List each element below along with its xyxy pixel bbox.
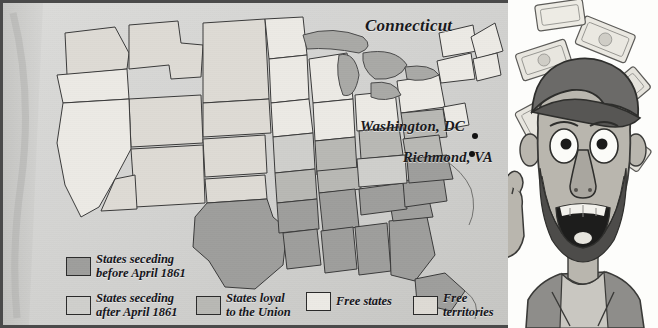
legend-item-loyal-union: States loyal to the Union	[196, 292, 291, 319]
legend-swatch-free-states	[306, 292, 331, 311]
map-label-connecticut: Connecticut	[365, 16, 452, 36]
legend-item-free-territories: Free territories	[413, 292, 494, 319]
legend-item-seceding-after: States seceding after April 1861	[66, 292, 177, 319]
legend-label-loyal-union: States loyal to the Union	[226, 292, 291, 319]
legend-swatch-seceding-after	[66, 296, 91, 315]
map-canvas: Connecticut Washington, DC Richmond, VA …	[3, 3, 513, 325]
us-secession-map-panel: Connecticut Washington, DC Richmond, VA …	[0, 0, 516, 328]
legend-swatch-loyal-union	[196, 296, 221, 315]
cartoon-pupil-left	[561, 139, 572, 150]
figure-root: Connecticut Washington, DC Richmond, VA …	[0, 0, 658, 328]
map-legend: States seceding before April 1861 States…	[3, 247, 513, 325]
legend-label-seceding-after: States seceding after April 1861	[96, 292, 177, 319]
legend-item-free-states: Free states	[306, 292, 392, 311]
city-dot-washington-dc	[472, 133, 478, 139]
cartoon-illustration	[508, 0, 658, 328]
legend-swatch-free-territories	[413, 296, 438, 315]
legend-label-free-territories: Free territories	[443, 292, 494, 319]
cartoon-pupil-right	[597, 139, 608, 150]
legend-swatch-seceding-before	[66, 257, 91, 276]
legend-item-seceding-before: States seceding before April 1861	[66, 253, 186, 280]
legend-label-seceding-before: States seceding before April 1861	[96, 253, 186, 280]
city-dot-richmond-va	[469, 151, 475, 157]
cartoon-teeth-lower	[574, 232, 592, 244]
map-label-richmond-va: Richmond, VA	[403, 149, 493, 166]
legend-label-free-states: Free states	[336, 295, 392, 309]
cartoon-graphic	[508, 0, 658, 328]
map-label-washington-dc: Washington, DC	[360, 118, 465, 135]
cartoon-hand	[508, 171, 524, 258]
